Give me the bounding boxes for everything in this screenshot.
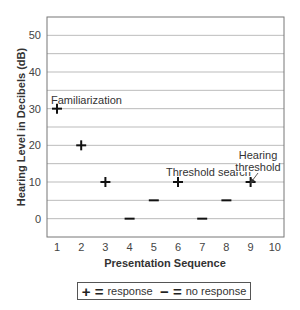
gridlines: [47, 35, 284, 218]
y-axis-ticks: 01020304050: [29, 29, 41, 224]
legend-item-no-response: − = no response: [160, 284, 246, 299]
annotation-threshold: threshold: [235, 161, 280, 173]
annotation-hearing: Hearing: [239, 149, 278, 161]
x-tick-label: 9: [248, 241, 254, 253]
minus-icon: − =: [160, 284, 182, 299]
x-tick-label: 10: [269, 241, 281, 253]
y-tick-label: 40: [29, 66, 41, 78]
x-axis-ticks: 12345678910: [54, 241, 281, 253]
y-tick-label: 30: [29, 103, 41, 115]
x-tick-label: 2: [78, 241, 84, 253]
x-tick-label: 3: [102, 241, 108, 253]
annotation-familiarization: Familiarization: [51, 94, 122, 106]
y-tick-label: 20: [29, 139, 41, 151]
legend-label-response: response: [107, 285, 152, 297]
x-axis-title: Presentation Sequence: [104, 257, 226, 269]
hearing-threshold-chart: 01020304050 12345678910 Familiarization …: [0, 0, 300, 280]
y-axis-title: Hearing Level in Decibels (dB): [15, 48, 27, 207]
data-markers: [52, 104, 256, 219]
plus-icon: + =: [82, 284, 104, 299]
x-tick-label: 1: [54, 241, 60, 253]
y-tick-label: 10: [29, 176, 41, 188]
legend-label-no-response: no response: [186, 285, 247, 297]
x-tick-label: 5: [151, 241, 157, 253]
x-tick-label: 7: [199, 241, 205, 253]
x-tick-label: 4: [127, 241, 133, 253]
y-tick-label: 0: [35, 213, 41, 225]
y-tick-label: 50: [29, 29, 41, 41]
x-tick-label: 8: [223, 241, 229, 253]
legend-item-response: + = response: [82, 284, 153, 299]
x-tick-label: 6: [175, 241, 181, 253]
legend: + = response − = no response: [77, 282, 251, 300]
